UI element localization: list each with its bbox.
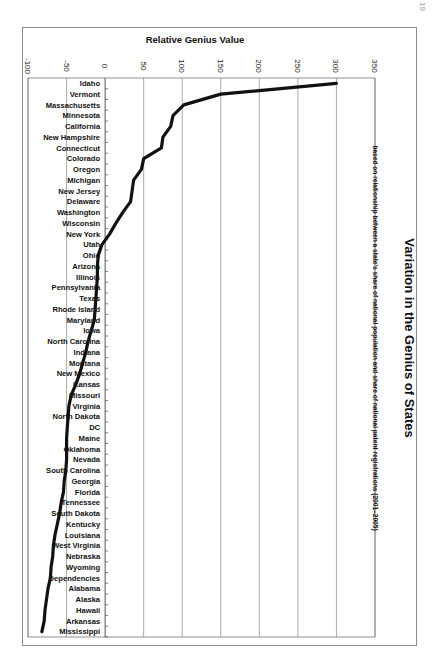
category-label: Georgia: [71, 477, 100, 486]
category-label: Alaska: [76, 595, 101, 604]
value-tick-label: 50: [139, 62, 148, 71]
category-label: New Jersey: [58, 187, 101, 196]
value-tick-label: 200: [254, 59, 263, 73]
category-label: Kentucky: [66, 520, 101, 529]
category-label: Wyoming: [66, 563, 100, 572]
chart-frame: -100-50050100150200250300350 Relative Ge…: [22, 27, 417, 646]
category-label: Mississippi: [59, 627, 100, 636]
value-tick-label: 100: [177, 59, 186, 73]
category-label: Hawaii: [76, 606, 100, 615]
value-tick-label: 300: [331, 59, 340, 73]
category-label: California: [65, 122, 101, 131]
category-label: Oklahoma: [63, 445, 100, 454]
category-label: Michigan: [67, 176, 100, 185]
category-label: Louisiana: [65, 531, 101, 540]
category-label: West Virginia: [52, 541, 101, 550]
category-label: Minnesota: [63, 111, 101, 120]
category-label: North Dakota: [52, 412, 100, 421]
value-tick-label: -50: [62, 60, 71, 72]
category-label: Idaho: [80, 79, 101, 88]
category-label: Dependencies: [49, 574, 101, 583]
category-label: South Carolina: [46, 466, 101, 475]
chart-title: Variation in the Genius of States: [402, 238, 417, 437]
value-tick-label: 0: [100, 64, 109, 69]
category-label: DC: [89, 423, 100, 432]
value-tick-label: 150: [216, 59, 225, 73]
category-label: Nebraska: [66, 552, 101, 561]
category-label: Connecticut: [56, 144, 100, 153]
value-tick-label: 250: [293, 59, 302, 73]
category-label: Oregon: [73, 165, 100, 174]
category-label: Colorado: [67, 154, 101, 163]
value-tick-label: -100: [23, 58, 32, 75]
value-axis-title: Relative Genius Value: [146, 34, 245, 45]
category-label: Washington: [57, 208, 101, 217]
category-label: Vermont: [70, 90, 101, 99]
category-label: Nevada: [73, 455, 101, 464]
category-label: Maine: [79, 434, 101, 443]
category-label: North Carolina: [47, 337, 101, 346]
value-tick-label: 350: [370, 59, 379, 73]
category-label: Tennessee: [61, 498, 100, 507]
line-chart: -100-50050100150200250300350 Relative Ge…: [23, 28, 418, 647]
chart-title-group: Variation in the Genius of States: [402, 238, 417, 437]
page-number: 19: [418, 2, 427, 11]
category-label: Utah: [83, 240, 100, 249]
category-label: Pennsylvania: [52, 283, 101, 292]
category-label: Florida: [75, 488, 101, 497]
category-label: New Hampshire: [43, 133, 100, 142]
category-label: Delaware: [67, 197, 100, 206]
chart-subtitle-group: based on relationship between a state's …: [371, 145, 379, 530]
value-axis-ticks: -100-50050100150200250300350: [23, 58, 379, 75]
chart-subtitle: based on relationship between a state's …: [371, 145, 379, 530]
category-label: Alabama: [68, 584, 100, 593]
category-label: Virginia: [72, 402, 100, 411]
category-label: Wisconsin: [62, 219, 100, 228]
category-label: New York: [66, 230, 101, 239]
category-label: Arkansas: [66, 617, 100, 626]
category-label: Massachusetts: [46, 101, 100, 110]
